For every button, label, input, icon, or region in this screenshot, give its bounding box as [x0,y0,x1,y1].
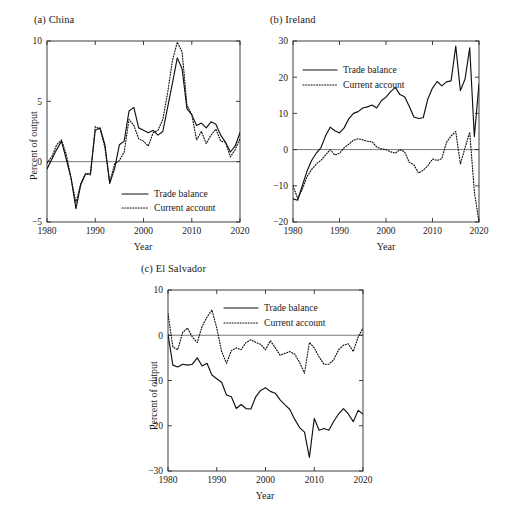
y-tick-label: 0 [37,157,42,167]
y-tick-label: −10 [148,376,163,386]
legend-label-trade-balance: Trade balance [343,64,397,75]
x-tick-label: 1990 [86,226,105,236]
panel-china-plot: −5051019801990200020102020Trade balanceC… [0,0,253,260]
x-tick-label: 2010 [182,226,201,236]
legend: Trade balanceCurrent account [122,188,216,213]
x-tick-label: 2020 [354,475,373,485]
y-tick-label: 0 [158,331,163,341]
x-tick-label: 1980 [159,475,178,485]
panel-ireland: (b) Ireland Year −20−1001020301980199020… [253,0,505,260]
series-line-trade-balance [168,334,363,457]
x-tick-label: 2000 [377,226,396,236]
y-tick-label: 5 [37,97,42,107]
figure-three-panel-balances: (a) China Percent of output Year −505101… [0,0,505,521]
legend-label-current-account: Current account [343,79,405,90]
y-tick-label: 0 [283,145,288,155]
legend: Trade balanceCurrent account [303,64,405,90]
legend-label-current-account: Current account [264,317,326,328]
x-tick-label: 2000 [134,226,153,236]
y-tick-label: 10 [33,36,43,46]
panel-china: (a) China Percent of output Year −505101… [0,0,253,260]
panel-el-salvador-plot: −30−20−1001019801990200020102020Trade ba… [120,260,405,521]
x-tick-label: 1990 [330,226,349,236]
x-tick-label: 2020 [470,226,489,236]
panel-ireland-plot: −20−10010203019801990200020102020Trade b… [253,0,505,260]
legend-label-trade-balance: Trade balance [154,188,208,199]
x-tick-label: 1980 [38,226,57,236]
y-tick-label: −10 [273,181,288,191]
series-line-trade-balance [47,58,240,209]
series-line-current-account [293,132,479,223]
x-tick-label: 2010 [305,475,324,485]
x-tick-label: 2000 [256,475,275,485]
panel-el-salvador: (c) El Salvador Percent of output Year −… [120,260,405,521]
legend: Trade balanceCurrent account [224,302,326,328]
legend-label-trade-balance: Trade balance [264,302,318,313]
x-tick-label: 2010 [423,226,442,236]
legend-label-current-account: Current account [154,202,216,213]
y-tick-label: −20 [148,421,163,431]
y-tick-label: 30 [279,36,289,46]
x-tick-label: 1990 [207,475,226,485]
y-tick-label: 10 [154,285,164,295]
y-tick-label: 20 [279,73,289,83]
x-tick-label: 2020 [231,226,250,236]
y-tick-label: 10 [279,109,289,119]
x-tick-label: 1980 [284,226,303,236]
